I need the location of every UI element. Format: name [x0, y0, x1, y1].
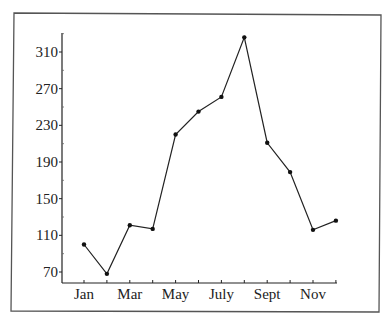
data-point: [173, 132, 177, 136]
x-tick-label: Jan: [74, 286, 94, 302]
x-tick-label: Sept: [254, 286, 282, 302]
data-point: [288, 170, 292, 174]
data-series: [82, 35, 338, 276]
data-point: [219, 95, 223, 99]
data-point: [105, 272, 109, 276]
x-tick-label: May: [162, 286, 190, 302]
x-axis: JanMarMayJulySeptNov: [62, 280, 337, 302]
x-tick-label: Mar: [117, 286, 142, 302]
y-tick-label: 150: [36, 191, 59, 207]
data-point: [82, 242, 86, 246]
x-tick-label: July: [209, 286, 235, 302]
data-point: [196, 109, 200, 113]
data-point: [151, 227, 155, 231]
line-chart: 70110150190230270310 JanMarMayJulySeptNo…: [0, 0, 390, 326]
chart-frame: [11, 13, 381, 312]
data-point: [265, 141, 269, 145]
y-tick-label: 230: [36, 117, 59, 133]
y-tick-label: 190: [36, 154, 59, 170]
y-tick-label: 110: [36, 227, 58, 243]
y-tick-label: 270: [36, 81, 59, 97]
data-point: [334, 218, 338, 222]
data-point: [311, 228, 315, 232]
y-tick-label: 310: [36, 44, 59, 60]
y-tick-label: 70: [43, 264, 58, 280]
y-axis: 70110150190230270310: [36, 33, 65, 283]
data-point: [128, 223, 132, 227]
series-line: [84, 37, 336, 274]
data-point: [242, 35, 246, 39]
x-tick-label: Nov: [300, 286, 326, 302]
